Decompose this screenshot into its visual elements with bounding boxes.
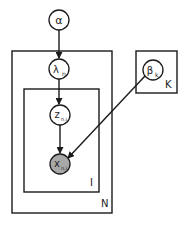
node-lambda: λ n [49,59,69,79]
node-x-observed: x n,i [50,154,70,174]
svg-text:z: z [54,109,59,120]
plate-n-label: N [101,198,108,209]
plate-diagram: N I K α λ n z n,i x n,i β k [0,0,188,227]
svg-text:n,i: n,i [61,116,67,122]
svg-text:x: x [54,158,60,169]
svg-text:n: n [62,70,66,77]
node-beta: β k [143,60,163,80]
svg-text:k: k [155,71,159,78]
plate-i [24,89,99,192]
node-z: z n,i [50,105,70,125]
plate-i-label: I [90,177,93,188]
svg-text:β: β [147,65,153,76]
node-alpha: α [49,10,69,30]
svg-text:λ: λ [53,64,59,75]
svg-text:n,i: n,i [61,165,67,171]
plate-k-label: K [165,79,172,90]
svg-text:α: α [55,14,62,27]
